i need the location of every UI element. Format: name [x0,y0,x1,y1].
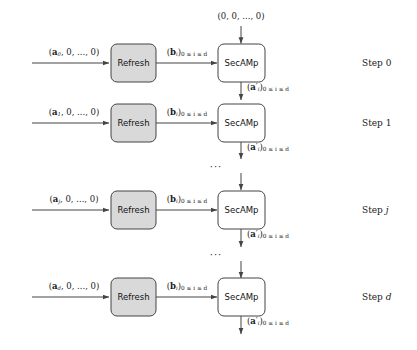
ellipsis-between-row-2-and-row-3: ··· [210,249,223,260]
row-2-step-label: Step j [362,205,389,215]
row-0-middle-label: (bi)0 ≤ i ≤ d [167,48,208,58]
diagram-canvas: (0, 0, ..., 0) (a0, 0, ..., 0) Refresh (… [0,0,417,350]
row-3-step-label: Step d [362,292,392,302]
ellipsis-between-row-1-and-row-2: ··· [210,161,223,172]
row-1-middle-label: (bi)0 ≤ i ≤ d [167,108,208,118]
row-3-output-label: (a′i)0 ≤ i ≤ d [247,317,289,327]
row-1-secamp-label: SecAMp [225,118,259,128]
row-3-refresh-label: Refresh [117,292,149,302]
row-0-step-label: Step 0 [362,58,391,68]
row-2-output-label: (a′i)0 ≤ i ≤ d [247,230,289,240]
row-1-output-label: (a′i)0 ≤ i ≤ d [247,143,289,153]
row-2-refresh-label: Refresh [117,205,149,215]
row-2-secamp-label: SecAMp [225,205,259,215]
top-input-label: (0, 0, ..., 0) [217,12,264,21]
row-2-input-label: (aj, 0, ..., 0) [50,195,99,205]
row-1-refresh-label: Refresh [117,118,149,128]
row-0-refresh-label: Refresh [117,58,149,68]
row-3-middle-label: (bi)0 ≤ i ≤ d [167,282,208,292]
row-0-output-label: (a′i)0 ≤ i ≤ d [247,83,289,93]
row-3-input-label: (ad, 0, ..., 0) [49,282,100,292]
row-1-input-label: (a1, 0, ..., 0) [49,108,100,118]
row-0-input-label: (a0, 0, ..., 0) [49,48,100,58]
row-1-step-label: Step 1 [362,118,391,128]
row-3-secamp-label: SecAMp [225,292,259,302]
row-2-middle-label: (bi)0 ≤ i ≤ d [167,195,208,205]
row-0-secamp-label: SecAMp [225,58,259,68]
